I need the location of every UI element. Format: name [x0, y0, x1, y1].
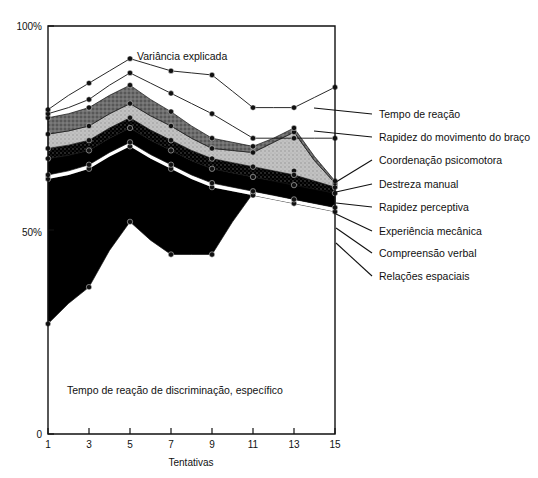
data-point-marker	[250, 144, 255, 149]
data-point-marker	[291, 125, 296, 130]
data-point-marker	[168, 68, 173, 73]
data-point-marker	[127, 125, 132, 130]
data-point-marker	[86, 138, 91, 143]
data-point-marker	[209, 156, 214, 161]
data-point-marker	[168, 148, 173, 153]
legend-label-destreza-manual: Destreza manual	[379, 178, 458, 190]
data-point-marker	[127, 115, 132, 120]
x-tick-label-1: 1	[45, 439, 51, 450]
y-axis-bottom-label: 0	[36, 429, 42, 440]
data-point-marker	[86, 123, 91, 128]
data-point-marker	[86, 105, 91, 110]
x-tick-label-9: 9	[209, 439, 215, 450]
data-point-marker	[250, 174, 255, 179]
legend-label-rapidez-perceptiva: Rapidez perceptiva	[379, 201, 469, 213]
data-point-marker	[209, 72, 214, 77]
legend-label-rapidez-movimento-braco: Rapidez do movimento do braço	[379, 131, 530, 143]
data-point-marker	[86, 284, 91, 289]
data-point-marker	[86, 162, 91, 167]
x-axis-title: Tentativas	[168, 457, 213, 468]
data-point-marker	[168, 91, 173, 96]
data-point-marker	[86, 148, 91, 153]
data-point-marker	[127, 219, 132, 224]
data-point-marker	[86, 80, 91, 85]
data-point-marker	[291, 136, 296, 141]
data-point-marker	[127, 70, 132, 75]
data-point-marker	[291, 182, 296, 187]
data-point-marker	[291, 105, 296, 110]
data-point-marker	[209, 111, 214, 116]
data-point-marker	[209, 180, 214, 185]
legend-label-compreensao-verbal: Compreensão verbal	[379, 247, 476, 259]
data-point-marker	[168, 252, 173, 257]
variance-stacked-area-chart: 13579111315 100% 50% 0 Tentativas Variân…	[0, 0, 538, 478]
bottom-region-annotation: Tempo de reação de discriminação, especí…	[67, 384, 283, 396]
data-point-marker	[127, 140, 132, 145]
data-point-marker	[127, 101, 132, 106]
data-point-marker	[250, 150, 255, 155]
x-tick-label-3: 3	[86, 439, 92, 450]
data-point-marker	[127, 56, 132, 61]
y-axis-top-label: 100%	[16, 21, 42, 32]
chart-figure: 13579111315 100% 50% 0 Tentativas Variân…	[0, 0, 538, 478]
data-point-marker	[209, 252, 214, 257]
x-tick-label-5: 5	[127, 439, 133, 450]
x-tick-label-11: 11	[248, 439, 259, 450]
data-point-marker	[209, 166, 214, 171]
data-point-marker	[209, 136, 214, 141]
data-point-marker	[168, 123, 173, 128]
data-point-marker	[168, 162, 173, 167]
y-axis-mid-label: 50%	[22, 227, 42, 238]
legend-label-relacoes-espaciais: Relações espaciais	[379, 270, 469, 282]
variance-annotation: Variância explicada	[137, 50, 227, 62]
data-point-marker	[86, 97, 91, 102]
x-tick-label-13: 13	[288, 439, 300, 450]
data-point-marker	[209, 146, 214, 151]
x-tick-label-7: 7	[168, 439, 174, 450]
data-point-marker	[250, 136, 255, 141]
data-point-marker	[250, 105, 255, 110]
data-point-marker	[291, 172, 296, 177]
x-tick-label-15: 15	[329, 439, 341, 450]
legend-label-experiencia-mecanica: Experiência mecânica	[379, 225, 482, 237]
data-point-marker	[168, 138, 173, 143]
data-point-marker	[250, 189, 255, 194]
legend-label-coordenacao-psicomotora: Coordenação psicomotora	[379, 154, 502, 166]
data-point-marker	[291, 197, 296, 202]
data-point-marker	[168, 109, 173, 114]
data-point-marker	[127, 82, 132, 87]
data-point-marker	[250, 164, 255, 169]
legend-label-tempo-de-reacao: Tempo de reação	[379, 108, 460, 120]
